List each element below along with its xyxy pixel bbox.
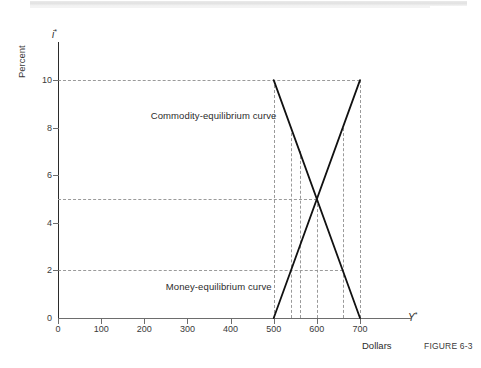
y-axis-variable-label: i* <box>52 28 57 40</box>
x-tick-label: 400 <box>215 324 247 334</box>
x-tick-label: 0 <box>42 324 74 334</box>
x-axis-unit-label: Dollars <box>362 340 392 351</box>
y-tick-label: 0 <box>32 314 52 323</box>
x-tick-label: 200 <box>128 324 160 334</box>
y-tick-label: 4 <box>32 219 52 228</box>
figure-caption: FIGURE 6-3 <box>424 341 473 351</box>
y-tick-label: 10 <box>32 76 52 85</box>
x-tick-label: 300 <box>171 324 203 334</box>
x-tick-label: 100 <box>85 324 117 334</box>
y-tick-label: 8 <box>32 124 52 133</box>
y-tick-label: 2 <box>32 266 52 275</box>
commodity-curve-annotation: Commodity-equilibrium curve <box>151 110 277 121</box>
y-axis-variable-superscript: * <box>54 28 57 35</box>
x-axis-variable-superscript: * <box>415 311 418 318</box>
x-tick-label: 500 <box>258 324 290 334</box>
x-tick-label: 600 <box>301 324 333 334</box>
y-tick-label: 6 <box>32 171 52 180</box>
scan-artifact-band-secondary <box>30 6 430 8</box>
money-curve-annotation: Money-equilibrium curve <box>166 281 272 292</box>
figure-page: Percent i* Y* 01002003004005006007000246… <box>0 0 481 368</box>
plot-area: 01002003004005006007000246810 Commodity-… <box>58 42 360 318</box>
y-axis-unit-label: Percent <box>16 45 27 78</box>
x-tick-label: 700 <box>344 324 376 334</box>
